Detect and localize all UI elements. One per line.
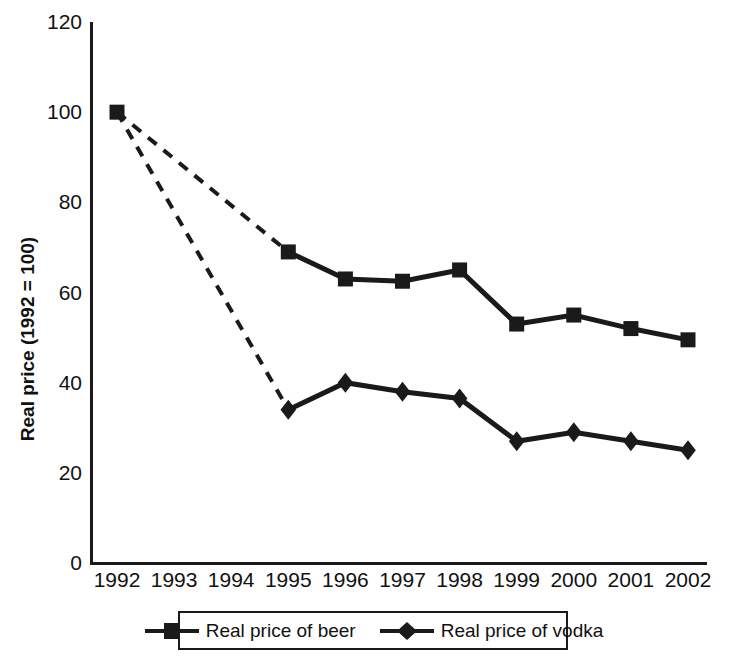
series-gap-connector-beer (117, 112, 288, 252)
data-point-beer-1999 (509, 317, 524, 332)
data-point-beer-2002 (681, 332, 696, 347)
chart-legend: Real price of beer Real price of vodka (178, 611, 568, 650)
data-point-vodka-2001 (623, 431, 639, 451)
data-point-beer-1997 (395, 274, 410, 289)
data-point-beer-1992 (110, 105, 125, 120)
data-point-vodka-1997 (395, 382, 411, 402)
plot-area (0, 0, 754, 668)
square-marker-icon (143, 621, 201, 641)
data-point-beer-2000 (566, 308, 581, 323)
chart-container: Real price (1992 = 100) 020406080100120 … (0, 0, 754, 668)
data-point-beer-1996 (338, 271, 353, 286)
legend-item-vodka: Real price of vodka (378, 620, 604, 642)
data-point-beer-1995 (281, 244, 296, 259)
data-point-vodka-2000 (566, 422, 582, 442)
diamond-marker-icon (378, 621, 436, 641)
data-point-vodka-1996 (338, 373, 354, 393)
data-point-vodka-1995 (281, 400, 297, 420)
data-point-vodka-2002 (680, 440, 696, 460)
legend-label-vodka: Real price of vodka (441, 620, 604, 642)
data-point-beer-1998 (452, 262, 467, 277)
series-gap-connector-vodka (117, 112, 288, 410)
legend-item-beer: Real price of beer (143, 620, 356, 642)
legend-label-beer: Real price of beer (206, 620, 356, 642)
data-point-beer-2001 (623, 321, 638, 336)
